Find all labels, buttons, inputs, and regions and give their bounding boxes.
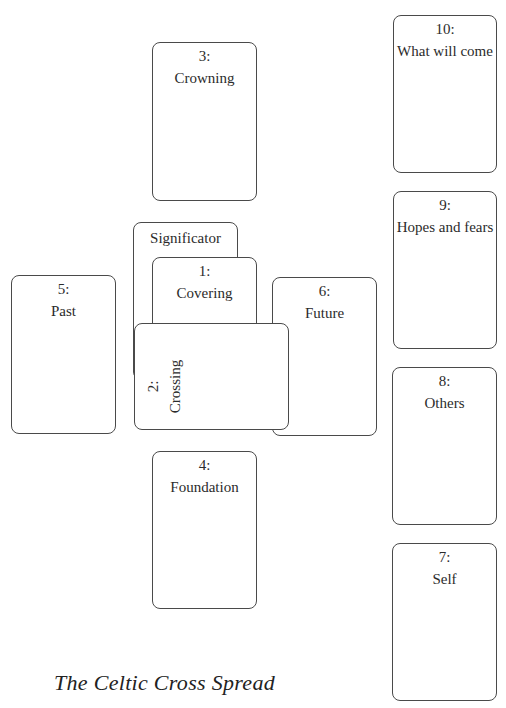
card-9-hopes-and-fears: 9: Hopes and fears xyxy=(393,191,497,349)
card-8-others: 8: Others xyxy=(392,367,497,525)
card-2-crossing: 2: Crossing xyxy=(134,323,289,430)
card-number: 4: xyxy=(153,456,256,475)
card-label: Significator xyxy=(134,229,237,248)
card-number: 8: xyxy=(393,372,496,391)
card-number: 9: xyxy=(394,196,496,215)
card-number: 3: xyxy=(153,47,256,66)
card-4-foundation: 4: Foundation xyxy=(152,451,257,609)
card-number: 7: xyxy=(393,548,496,567)
card-number: 10: xyxy=(394,20,496,39)
cropped-header-text xyxy=(216,0,290,2)
rotated-text: 2: Crossing xyxy=(144,334,185,440)
card-label: What will come xyxy=(394,42,496,61)
card-5-past: 5: Past xyxy=(11,275,116,434)
card-label: Others xyxy=(393,394,496,413)
card-number: 5: xyxy=(12,280,115,299)
card-label: Hopes and fears xyxy=(394,218,496,237)
spread-title: The Celtic Cross Spread xyxy=(54,670,275,696)
card-label: Crowning xyxy=(153,69,256,88)
card-number: 2: xyxy=(144,334,163,440)
card-label: Future xyxy=(273,304,376,323)
card-10-what-will-come: 10: What will come xyxy=(393,15,497,173)
card-number: 6: xyxy=(273,282,376,301)
card-label: Crossing xyxy=(166,334,185,440)
card-label: Covering xyxy=(153,284,256,303)
card-label: Past xyxy=(12,302,115,321)
card-label: Self xyxy=(393,570,496,589)
card-label: Foundation xyxy=(153,478,256,497)
card-number: 1: xyxy=(153,262,256,281)
card-7-self: 7: Self xyxy=(392,543,497,701)
card-3-crowning: 3: Crowning xyxy=(152,42,257,201)
